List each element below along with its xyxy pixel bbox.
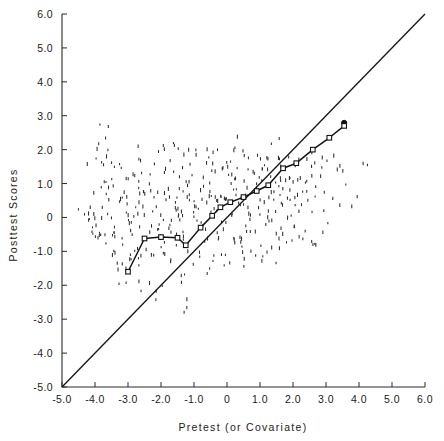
x-tick-label: 4.0 bbox=[351, 393, 367, 405]
x-tick-label: 3.0 bbox=[318, 393, 334, 405]
x-axis-tick-labels: -5.0-4.0-3.0-2.0-1.001.02.03.04.05.06.0 bbox=[52, 393, 433, 405]
x-tick-label: -4.0 bbox=[85, 393, 105, 405]
y-tick-label: 6.0 bbox=[37, 8, 53, 20]
scatter-point-group bbox=[78, 0, 378, 314]
x-tick-label: 5.0 bbox=[384, 393, 400, 405]
smoothing-line-vertex bbox=[183, 243, 188, 248]
y-tick-label: 2.0 bbox=[37, 144, 53, 156]
smoothing-line-vertex bbox=[175, 236, 180, 241]
y-tick-label: 0 bbox=[47, 211, 53, 223]
x-tick-label: 2.0 bbox=[285, 393, 301, 405]
smoothing-line-vertex bbox=[241, 195, 246, 200]
y-tick-label: -2.0 bbox=[33, 279, 53, 291]
y-axis-tick-labels: -5.0-4.0-3.0-2.0-1.001.02.03.04.05.06.0 bbox=[33, 8, 53, 393]
smoothing-line-vertex bbox=[218, 205, 223, 210]
x-axis-title: Pretest (or Covariate) bbox=[179, 421, 308, 433]
smoothing-line-vertex bbox=[311, 147, 316, 152]
chart-canvas: -5.0-4.0-3.0-2.0-1.001.02.03.04.05.06.0 … bbox=[0, 0, 444, 441]
y-tick-label: -1.0 bbox=[33, 245, 53, 257]
smoothing-line-vertex bbox=[198, 225, 203, 230]
x-axis-tick-marks bbox=[62, 382, 425, 387]
smoothing-line-vertex bbox=[159, 235, 164, 240]
y-tick-label: -4.0 bbox=[33, 347, 53, 359]
smoothing-line-vertex bbox=[210, 213, 215, 218]
y-axis-tick-marks bbox=[62, 14, 67, 387]
smoothing-line-vertex bbox=[142, 236, 147, 241]
y-tick-label: 4.0 bbox=[37, 76, 53, 88]
y-tick-label: 5.0 bbox=[37, 42, 53, 54]
x-tick-label: -5.0 bbox=[52, 393, 72, 405]
x-tick-label: 6.0 bbox=[417, 393, 433, 405]
y-tick-label: -5.0 bbox=[33, 381, 53, 393]
smoothing-line-vertex bbox=[294, 161, 299, 166]
identity-reference-line bbox=[62, 14, 425, 387]
x-tick-label: -2.0 bbox=[151, 393, 171, 405]
y-axis-title: Posttest Scores bbox=[7, 168, 19, 261]
x-tick-label: 0 bbox=[224, 393, 230, 405]
smoothing-line-vertex bbox=[126, 269, 131, 274]
y-tick-label: -3.0 bbox=[33, 313, 53, 325]
x-tick-label: -1.0 bbox=[184, 393, 204, 405]
scatter-plot-figure: -5.0-4.0-3.0-2.0-1.001.02.03.04.05.06.0 … bbox=[0, 0, 444, 441]
smoothing-line-vertex bbox=[266, 183, 271, 188]
smoothing-line-vertex bbox=[342, 124, 347, 129]
smoothing-line-markers bbox=[126, 120, 347, 274]
y-tick-label: 1.0 bbox=[37, 178, 53, 190]
smoothing-line-vertex bbox=[228, 200, 233, 205]
smoothing-line-vertex bbox=[254, 189, 259, 194]
smoothing-line-vertex bbox=[327, 135, 332, 140]
smoothing-line-vertex bbox=[281, 166, 286, 171]
y-tick-label: 3.0 bbox=[37, 110, 53, 122]
x-tick-label: -3.0 bbox=[118, 393, 138, 405]
x-tick-label: 1.0 bbox=[252, 393, 268, 405]
